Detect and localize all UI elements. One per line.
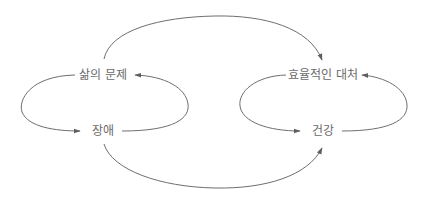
node-life-problems: 삶의 문제	[77, 69, 129, 81]
edge-health-to-effective-coping	[342, 75, 407, 131]
edge-disability-to-life-problems	[122, 75, 188, 131]
edge-disability-to-health	[104, 144, 322, 188]
edge-life-problems-to-disability	[21, 75, 80, 131]
node-disability: 장애	[90, 125, 116, 137]
node-health: 건강	[310, 125, 336, 137]
edge-effective-coping-to-health	[240, 75, 300, 131]
edge-life-problems-to-effective-coping	[104, 16, 322, 60]
node-effective-coping: 효율적인 대처	[286, 69, 360, 81]
diagram-edges	[0, 0, 425, 202]
diagram-canvas: 삶의 문제 장애 효율적인 대처 건강	[0, 0, 425, 202]
